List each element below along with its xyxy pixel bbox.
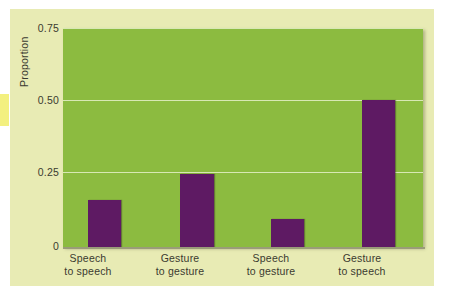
bar-speech-to-speech[interactable]	[88, 200, 121, 247]
bar-gesture-to-speech[interactable]	[362, 100, 395, 247]
x-tick-line2: to gesture	[140, 265, 220, 278]
bar-gesture-to-gesture[interactable]	[180, 174, 214, 247]
x-tick-line1: Gesture	[322, 252, 402, 265]
x-axis-line	[63, 247, 425, 249]
y-tick-0-75: 0.75	[13, 23, 59, 34]
x-tick-line2: to speech	[322, 265, 402, 278]
x-tick-line1: Gesture	[140, 252, 220, 265]
y-tick-0: 0	[13, 241, 59, 252]
x-tick-label-speech-to-speech: Speech to speech	[48, 252, 128, 278]
y-axis-title: Proportion	[18, 73, 30, 87]
x-tick-label-speech-to-gesture: Speech to gesture	[231, 252, 311, 278]
x-tick-label-gesture-to-gesture: Gesture to gesture	[140, 252, 220, 278]
plot-area	[63, 28, 423, 247]
x-tick-line1: Speech	[48, 252, 128, 265]
chart-figure: 0.75 0.50 0.25 0 Proportion Speech to sp…	[0, 0, 451, 296]
scan-edge-artifact	[0, 94, 9, 126]
gridline-0-75	[63, 28, 423, 29]
x-tick-line1: Speech	[231, 252, 311, 265]
y-tick-0-50: 0.50	[13, 95, 59, 106]
x-tick-line2: to speech	[48, 265, 128, 278]
x-tick-label-gesture-to-speech: Gesture to speech	[322, 252, 402, 278]
chart-panel: 0.75 0.50 0.25 0 Proportion Speech to sp…	[10, 9, 434, 286]
x-tick-line2: to gesture	[231, 265, 311, 278]
bar-speech-to-gesture[interactable]	[271, 219, 304, 247]
y-tick-0-25: 0.25	[13, 167, 59, 178]
